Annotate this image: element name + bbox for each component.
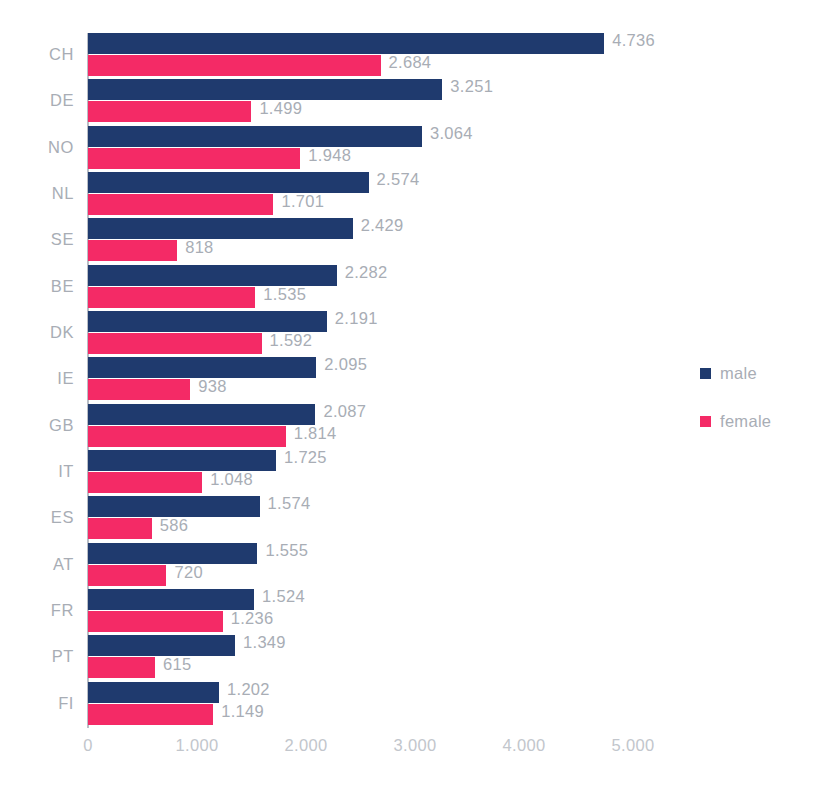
bar-group: 1.2021.149: [88, 682, 633, 726]
bar-group: 1.574586: [88, 496, 633, 540]
bar-value-label: 4.736: [612, 31, 655, 50]
bar-group: 3.0641.948: [88, 126, 633, 170]
bar-group: 2.095938: [88, 357, 633, 401]
bar-female: [88, 565, 166, 586]
legend-label: male: [720, 364, 757, 383]
bar-group: 4.7362.684: [88, 33, 633, 77]
bar-value-label: 1.948: [308, 146, 351, 165]
bar-value-label: 1.574: [268, 494, 311, 513]
bar-female: [88, 287, 255, 308]
bar-group: 2.2821.535: [88, 265, 633, 309]
x-tick-label: 1.000: [176, 736, 219, 755]
x-tick-label: 4.000: [503, 736, 546, 755]
category-label-it: IT: [14, 462, 74, 481]
bar-value-label: 1.149: [221, 702, 264, 721]
plot-area: 4.7362.6843.2511.4993.0641.9482.5741.701…: [88, 33, 633, 728]
category-axis: CHDENONLSEBEDKIEGBITESATFRPTFI: [0, 33, 74, 728]
x-tick-label: 0: [83, 736, 92, 755]
bar-value-label: 3.251: [450, 77, 493, 96]
category-label-ch: CH: [14, 45, 74, 64]
legend-item-female[interactable]: female: [700, 411, 771, 431]
bar-male: [88, 33, 604, 54]
category-label-ie: IE: [14, 369, 74, 388]
bar-female: [88, 148, 300, 169]
bar-value-label: 1.202: [227, 680, 270, 699]
bar-female: [88, 704, 213, 725]
bar-female: [88, 379, 190, 400]
bar-value-label: 2.574: [377, 170, 420, 189]
bar-value-label: 2.191: [335, 309, 378, 328]
bar-group: 2.5741.701: [88, 172, 633, 216]
bar-female: [88, 333, 262, 354]
bar-value-label: 1.535: [263, 285, 306, 304]
bar-value-label: 1.524: [262, 587, 305, 606]
bar-female: [88, 426, 286, 447]
bar-group: 2.1911.592: [88, 311, 633, 355]
category-label-gb: GB: [14, 416, 74, 435]
legend-item-male[interactable]: male: [700, 363, 771, 383]
bar-female: [88, 611, 223, 632]
bar-group: 1.7251.048: [88, 450, 633, 494]
category-label-fi: FI: [14, 694, 74, 713]
bar-value-label: 586: [160, 516, 188, 535]
bar-chart: CHDENONLSEBEDKIEGBITESATFRPTFI 4.7362.68…: [0, 0, 822, 799]
bar-female: [88, 240, 177, 261]
x-tick-label: 3.000: [394, 736, 437, 755]
bar-value-label: 2.684: [389, 53, 432, 72]
category-label-fr: FR: [14, 601, 74, 620]
legend-swatch-female: [700, 416, 711, 427]
bar-male: [88, 543, 257, 564]
category-label-es: ES: [14, 508, 74, 527]
category-label-at: AT: [14, 555, 74, 574]
bar-male: [88, 218, 353, 239]
category-label-be: BE: [14, 277, 74, 296]
bar-value-label: 615: [163, 655, 191, 674]
bar-group: 1.5241.236: [88, 589, 633, 633]
category-label-pt: PT: [14, 647, 74, 666]
bar-group: 2.0871.814: [88, 404, 633, 448]
bar-value-label: 2.087: [323, 402, 366, 421]
bar-female: [88, 55, 381, 76]
bar-male: [88, 682, 219, 703]
bar-value-label: 2.095: [324, 355, 367, 374]
bar-male: [88, 79, 442, 100]
bar-value-label: 1.814: [294, 424, 337, 443]
bar-male: [88, 589, 254, 610]
category-label-dk: DK: [14, 323, 74, 342]
bar-value-label: 1.499: [259, 99, 302, 118]
bar-value-label: 720: [174, 563, 202, 582]
bar-value-label: 1.725: [284, 448, 327, 467]
category-label-no: NO: [14, 138, 74, 157]
bar-male: [88, 357, 316, 378]
bar-value-label: 1.701: [281, 192, 324, 211]
x-tick-label: 2.000: [285, 736, 328, 755]
bar-value-label: 1.236: [231, 609, 274, 628]
bar-female: [88, 194, 273, 215]
category-label-se: SE: [14, 230, 74, 249]
bar-male: [88, 635, 235, 656]
legend-label: female: [720, 412, 771, 431]
x-tick-label: 5.000: [612, 736, 655, 755]
legend-swatch-male: [700, 368, 711, 379]
bar-male: [88, 172, 369, 193]
category-label-de: DE: [14, 91, 74, 110]
bar-male: [88, 126, 422, 147]
bar-value-label: 2.282: [345, 263, 388, 282]
bar-group: 1.349615: [88, 635, 633, 679]
bar-value-label: 1.555: [265, 541, 308, 560]
bar-value-label: 818: [185, 238, 213, 257]
bar-value-label: 1.048: [210, 470, 253, 489]
bar-value-label: 1.592: [270, 331, 313, 350]
bar-value-label: 1.349: [243, 633, 286, 652]
chart-legend: malefemale: [700, 363, 771, 459]
bar-male: [88, 265, 337, 286]
bar-female: [88, 518, 152, 539]
bar-group: 3.2511.499: [88, 79, 633, 123]
bar-male: [88, 404, 315, 425]
bar-male: [88, 311, 327, 332]
bar-value-label: 2.429: [361, 216, 404, 235]
bar-female: [88, 101, 251, 122]
bar-value-label: 938: [198, 377, 226, 396]
bar-male: [88, 450, 276, 471]
bar-value-label: 3.064: [430, 124, 473, 143]
